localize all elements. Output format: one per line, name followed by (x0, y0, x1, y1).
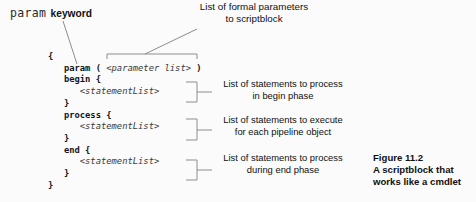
code-line: { (48, 51, 202, 63)
code-line: <statementList> (48, 86, 202, 98)
annotation-end-phase: List of statements to process during end… (216, 152, 350, 176)
param-keyword-text: keyword (51, 8, 92, 19)
figure-caption-line2: A scriptblock that (373, 164, 461, 176)
annotation-process-line2: for each pipeline object (216, 126, 350, 138)
formal-parameters-line1: List of formal parameters (188, 1, 320, 13)
annotation-begin-phase: List of statements to process in begin p… (216, 78, 350, 102)
annotation-begin-line1: List of statements to process (216, 78, 350, 90)
code-line: end { (48, 145, 202, 157)
code-line: process { (48, 110, 202, 122)
annotation-end-line2: during end phase (216, 164, 350, 176)
figure-11-2-diagram: param keyword List of formal parameters … (0, 0, 476, 202)
annotation-begin-line2: in begin phase (216, 90, 350, 102)
code-line: begin { (48, 74, 202, 86)
annotation-process-phase: List of statements to execute for each p… (216, 114, 350, 138)
formal-parameters-line2: to scriptblock (188, 13, 320, 25)
code-line: param ( <parameter list> ) (48, 63, 202, 75)
figure-caption: Figure 11.2 A scriptblock that works lik… (373, 152, 461, 188)
param-keyword-mono: param (10, 6, 46, 20)
code-line: <statementList> (48, 156, 202, 168)
code-line: } (48, 98, 202, 110)
figure-caption-title: Figure 11.2 (373, 152, 461, 164)
param-keyword-label: param keyword (10, 3, 92, 21)
code-line: } (48, 168, 202, 180)
code-line: <statementList> (48, 121, 202, 133)
annotation-process-line1: List of statements to execute (216, 114, 350, 126)
formal-parameters-label: List of formal parameters to scriptblock (188, 1, 320, 25)
code-line: } (48, 180, 202, 192)
scriptblock-code: { param ( <parameter list> ) begin { <st… (48, 51, 202, 191)
figure-caption-line3: works like a cmdlet (373, 176, 461, 188)
code-line: } (48, 133, 202, 145)
annotation-end-line1: List of statements to process (216, 152, 350, 164)
